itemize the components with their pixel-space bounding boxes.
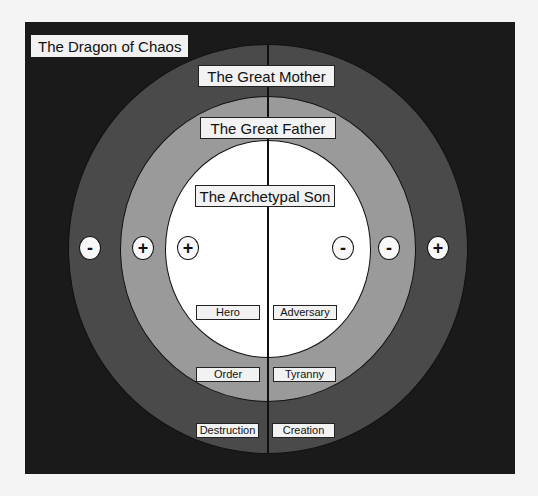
destruction-label: Destruction xyxy=(196,423,259,438)
sign-plus-inner-left: + xyxy=(177,236,199,260)
sign-minus-inner-right: - xyxy=(332,236,354,260)
diagram-frame: The Dragon of Chaos The Great Mother The… xyxy=(25,22,515,474)
sign-minus-middle-right: - xyxy=(378,236,400,260)
tyranny-label: Tyranny xyxy=(273,367,336,382)
hero-label: Hero xyxy=(196,305,260,320)
adversary-label: Adversary xyxy=(273,305,337,320)
great-father-label: The Great Father xyxy=(200,117,336,139)
sign-plus-outer-right: + xyxy=(427,236,449,260)
great-mother-label: The Great Mother xyxy=(198,65,335,87)
vertical-divider xyxy=(267,44,269,454)
sign-minus-outer-left: - xyxy=(79,236,101,260)
dragon-of-chaos-label: The Dragon of Chaos xyxy=(31,35,188,57)
archetypal-son-label: The Archetypal Son xyxy=(195,185,335,207)
creation-label: Creation xyxy=(272,423,335,438)
sign-plus-middle-left: + xyxy=(132,236,154,260)
order-label: Order xyxy=(196,367,260,382)
